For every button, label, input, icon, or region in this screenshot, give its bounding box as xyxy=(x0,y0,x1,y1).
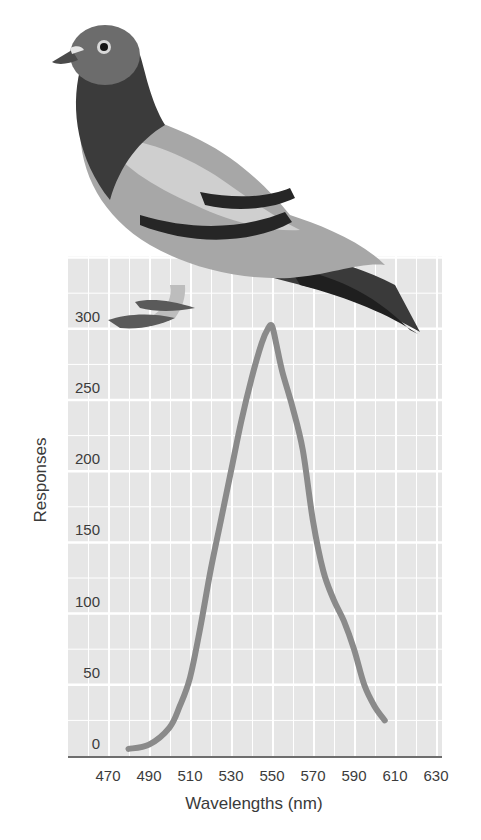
x-tick-label: 550 xyxy=(259,767,284,784)
y-tick-label: 150 xyxy=(75,521,100,538)
y-tick-label: 250 xyxy=(75,379,100,396)
x-tick-label: 490 xyxy=(136,767,161,784)
y-tick-label: 200 xyxy=(75,450,100,467)
x-tick-label: 610 xyxy=(382,767,407,784)
y-tick-label: 0 xyxy=(92,735,100,752)
x-tick-label: 530 xyxy=(218,767,243,784)
y-tick-label: 50 xyxy=(83,664,100,681)
y-tick-label: 300 xyxy=(75,308,100,325)
wavelength-response-chart: 050100150200250300 470490510530550570590… xyxy=(0,0,481,840)
x-tick-label: 470 xyxy=(95,767,120,784)
x-tick-label: 510 xyxy=(177,767,202,784)
x-axis-ticks: 470490510530550570590610630 xyxy=(95,767,448,784)
x-axis-label: Wavelengths (nm) xyxy=(185,794,322,813)
x-tick-label: 630 xyxy=(423,767,448,784)
y-axis-label: Responses xyxy=(31,437,50,522)
plot-area xyxy=(68,256,442,756)
x-tick-label: 590 xyxy=(341,767,366,784)
x-tick-label: 570 xyxy=(300,767,325,784)
y-tick-label: 100 xyxy=(75,593,100,610)
